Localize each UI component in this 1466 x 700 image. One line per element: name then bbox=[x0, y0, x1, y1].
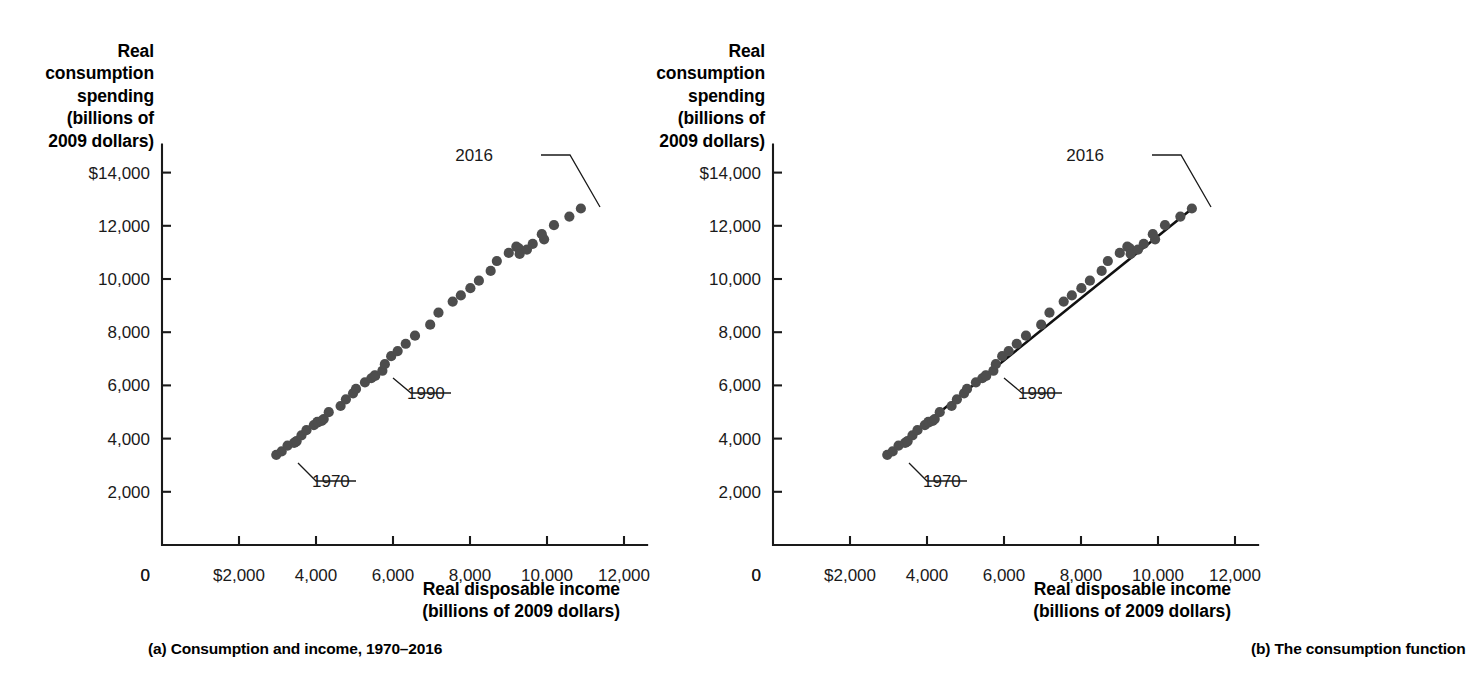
y-tick-label: 12,000 bbox=[709, 217, 761, 236]
panel-a-plot: 02,0004,0006,0008,00010,00012,000$14,000… bbox=[0, 0, 635, 700]
panel-b: Real consumption spending (billions of 2… bbox=[611, 0, 1246, 700]
data-point bbox=[1059, 296, 1069, 306]
data-point bbox=[1036, 320, 1046, 330]
x-tick-label: 4,000 bbox=[295, 566, 338, 585]
y-tick-label: 8,000 bbox=[718, 323, 761, 342]
y-tick-label: 6,000 bbox=[718, 376, 761, 395]
annotation-leader-line bbox=[541, 155, 600, 207]
x-tick-label: 12,000 bbox=[1209, 566, 1261, 585]
y-tick-label: 2,000 bbox=[718, 483, 761, 502]
data-point bbox=[1021, 331, 1031, 341]
annotation-label-1970: 1970 bbox=[312, 472, 350, 491]
data-point bbox=[564, 212, 574, 222]
panel-b-caption: (b) The consumption function bbox=[1251, 640, 1466, 658]
annotation-label-1990: 1990 bbox=[1018, 384, 1056, 403]
data-point bbox=[492, 256, 502, 266]
x-tick-label: 6,000 bbox=[372, 566, 415, 585]
data-point bbox=[448, 296, 458, 306]
y-tick-label: 4,000 bbox=[718, 430, 761, 449]
data-point bbox=[393, 346, 403, 356]
data-point bbox=[528, 239, 538, 249]
x-tick-label: 6,000 bbox=[983, 566, 1026, 585]
data-point bbox=[1067, 290, 1077, 300]
x-tick-label: 10,000 bbox=[521, 566, 573, 585]
data-point bbox=[1044, 308, 1054, 318]
y-tick-label: 6,000 bbox=[107, 376, 150, 395]
x-tick-label: $2,000 bbox=[824, 566, 876, 585]
data-point bbox=[401, 339, 411, 349]
data-point bbox=[1085, 276, 1095, 286]
data-point bbox=[1148, 229, 1158, 239]
data-point bbox=[425, 320, 435, 330]
data-point bbox=[1187, 203, 1197, 213]
annotation-label-2016: 2016 bbox=[455, 146, 493, 165]
data-point bbox=[549, 220, 559, 230]
x-tick-label: 8,000 bbox=[1060, 566, 1103, 585]
y-tick-label: 12,000 bbox=[98, 217, 150, 236]
data-point bbox=[1139, 239, 1149, 249]
y-tick-label: $14,000 bbox=[700, 164, 761, 183]
data-point bbox=[991, 359, 1001, 369]
annotation-label-1970: 1970 bbox=[923, 472, 961, 491]
data-point bbox=[380, 359, 390, 369]
data-point bbox=[1103, 256, 1113, 266]
data-point bbox=[1160, 220, 1170, 230]
x-tick-label: $2,000 bbox=[213, 566, 265, 585]
data-point bbox=[537, 229, 547, 239]
data-point bbox=[1097, 266, 1107, 276]
annotation-leader-line bbox=[1152, 155, 1211, 207]
annotation-label-1990: 1990 bbox=[407, 384, 445, 403]
data-point bbox=[962, 384, 972, 394]
data-point bbox=[324, 407, 334, 417]
y-tick-label: 2,000 bbox=[107, 483, 150, 502]
data-point bbox=[1012, 339, 1022, 349]
y-tick-label: 10,000 bbox=[98, 270, 150, 289]
y-tick-label: 10,000 bbox=[709, 270, 761, 289]
panel-a-caption: (a) Consumption and income, 1970–2016 bbox=[148, 640, 442, 658]
data-point bbox=[465, 283, 475, 293]
panel-a: Real consumption spending (billions of 2… bbox=[0, 0, 635, 700]
panel-b-plot: 02,0004,0006,0008,00010,00012,000$14,000… bbox=[611, 0, 1246, 700]
annotation-label-2016: 2016 bbox=[1066, 146, 1104, 165]
x-tick-label: 8,000 bbox=[449, 566, 492, 585]
data-point bbox=[576, 203, 586, 213]
data-point bbox=[474, 276, 484, 286]
data-point bbox=[486, 266, 496, 276]
data-point bbox=[456, 290, 466, 300]
x-tick-label: 0 bbox=[141, 566, 150, 585]
x-tick-label: 10,000 bbox=[1132, 566, 1184, 585]
data-point bbox=[351, 384, 361, 394]
data-point bbox=[433, 308, 443, 318]
data-point bbox=[410, 331, 420, 341]
data-point bbox=[935, 407, 945, 417]
data-point bbox=[1175, 212, 1185, 222]
x-tick-label: 0 bbox=[752, 566, 761, 585]
x-tick-label: 4,000 bbox=[906, 566, 949, 585]
y-tick-label: 8,000 bbox=[107, 323, 150, 342]
y-tick-label: $14,000 bbox=[89, 164, 150, 183]
y-tick-label: 4,000 bbox=[107, 430, 150, 449]
data-point bbox=[1076, 283, 1086, 293]
data-point bbox=[1004, 346, 1014, 356]
